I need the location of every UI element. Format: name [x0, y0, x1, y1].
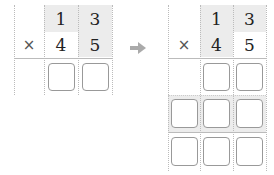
- right-digit-4: 4: [200, 32, 233, 57]
- left-grid-line: [112, 5, 113, 95]
- right-grid-line: [266, 5, 267, 171]
- right-answer-box[interactable]: [236, 63, 263, 91]
- left-answer-box[interactable]: [48, 63, 75, 91]
- left-digit-5: 5: [78, 32, 112, 57]
- right-grid-line: [200, 5, 201, 171]
- right-times-sign: ×: [168, 32, 200, 57]
- left-answer-box[interactable]: [82, 63, 109, 91]
- left-grid-line: [78, 5, 79, 95]
- right-digit-5: 5: [233, 32, 266, 57]
- right-digit-3: 3: [233, 5, 266, 32]
- right-answer-box[interactable]: [203, 137, 230, 166]
- right-answer-box[interactable]: [203, 99, 230, 128]
- right-product-line: [168, 58, 266, 59]
- left-grid-line: [14, 5, 15, 95]
- left-digit-4: 4: [44, 32, 78, 57]
- right-arrow-icon: [130, 41, 146, 55]
- right-row-line: [168, 95, 266, 96]
- right-answer-box[interactable]: [203, 63, 230, 91]
- right-sum-line: [168, 132, 266, 133]
- right-answer-box[interactable]: [171, 99, 198, 128]
- left-digit-1: 1: [44, 5, 78, 32]
- left-grid-line: [44, 5, 45, 95]
- right-grid-line: [233, 5, 234, 171]
- left-product-line: [14, 58, 112, 59]
- right-digit-1: 1: [200, 5, 233, 32]
- left-times-sign: ×: [14, 32, 44, 57]
- right-answer-box[interactable]: [236, 137, 263, 166]
- right-answer-box[interactable]: [171, 137, 198, 166]
- left-digit-3: 3: [78, 5, 112, 32]
- right-grid-line: [168, 5, 169, 171]
- right-answer-box[interactable]: [236, 99, 263, 128]
